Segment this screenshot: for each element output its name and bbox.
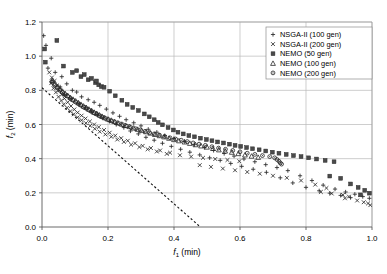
- marker-square: [239, 144, 243, 148]
- marker-square: [359, 193, 363, 197]
- y-tick-label: 1.2: [25, 18, 37, 27]
- marker-square: [339, 176, 343, 180]
- marker-square: [277, 151, 281, 155]
- marker-square: [323, 158, 327, 162]
- marker-square: [142, 112, 146, 116]
- marker-square-legend: [271, 52, 275, 56]
- marker-square: [147, 115, 151, 119]
- marker-square: [193, 135, 197, 139]
- marker-square: [62, 64, 66, 68]
- legend-label: NEMO (50 gen): [280, 49, 332, 58]
- marker-square: [349, 182, 353, 186]
- marker-square: [292, 154, 296, 158]
- legend-label: NSGA-II (200 gen): [280, 40, 341, 49]
- marker-square: [90, 76, 94, 80]
- marker-square: [233, 143, 237, 147]
- chart-root: 0.00.20.40.60.81.01.20.00.20.40.60.81.0f…: [0, 0, 387, 274]
- y-tick-label: 0.4: [25, 155, 37, 164]
- marker-square: [251, 147, 255, 151]
- marker-square: [270, 150, 274, 154]
- y-tick-label: 0.8: [25, 86, 37, 95]
- y-tick-label: 0.6: [25, 121, 37, 130]
- x-tick-label: 0.8: [300, 234, 312, 243]
- marker-square: [43, 60, 47, 64]
- legend-label: NEMO (100 gen): [280, 59, 336, 68]
- y-axis-title: f2 (min): [5, 111, 16, 139]
- marker-square: [171, 128, 175, 132]
- y-axis-title-group: f2 (min): [5, 111, 16, 139]
- x-tick-label: 0.4: [168, 234, 180, 243]
- marker-square: [367, 191, 371, 195]
- marker-square: [216, 140, 220, 144]
- x-axis-title: f1 (min): [173, 247, 201, 258]
- y-tick-label: 0.0: [25, 223, 37, 232]
- marker-square: [156, 121, 160, 125]
- marker-square: [363, 188, 367, 192]
- marker-square: [284, 152, 288, 156]
- marker-square: [131, 106, 135, 110]
- marker-square: [315, 157, 319, 161]
- marker-square: [328, 174, 332, 178]
- marker-square: [307, 156, 311, 160]
- scatter-plot: 0.00.20.40.60.81.01.20.00.20.40.60.81.0f…: [0, 0, 387, 274]
- marker-square: [299, 155, 303, 159]
- marker-square: [222, 141, 226, 145]
- x-tick-label: 1.0: [366, 234, 378, 243]
- y-tick-label: 0.2: [25, 189, 37, 198]
- marker-square: [136, 109, 140, 113]
- marker-square: [82, 73, 86, 77]
- marker-square: [264, 149, 268, 153]
- marker-square: [161, 123, 165, 127]
- marker-square: [204, 138, 208, 142]
- marker-square: [187, 134, 191, 138]
- marker-square: [102, 85, 106, 89]
- x-tick-label: 0.0: [36, 234, 48, 243]
- marker-square: [166, 126, 170, 130]
- marker-square: [245, 146, 249, 150]
- marker-square: [176, 130, 180, 134]
- marker-square: [108, 89, 112, 93]
- marker-square: [181, 132, 185, 136]
- marker-square: [95, 79, 99, 83]
- legend: NSGA-II (100 gen)NSGA-II (200 gen)NEMO (…: [266, 27, 372, 79]
- marker-square: [125, 102, 129, 106]
- marker-square: [332, 160, 336, 164]
- marker-square: [199, 136, 203, 140]
- marker-square: [228, 142, 232, 146]
- legend-label: NEMO (200 gen): [280, 69, 336, 78]
- y-tick-label: 1.0: [25, 52, 37, 61]
- marker-square: [113, 94, 117, 98]
- marker-square: [43, 47, 47, 51]
- x-tick-label: 0.2: [102, 234, 114, 243]
- x-tick-label: 0.6: [234, 234, 246, 243]
- marker-square: [257, 148, 261, 152]
- marker-square: [75, 69, 79, 73]
- marker-square: [120, 98, 124, 102]
- marker-square: [70, 70, 74, 74]
- marker-square: [55, 39, 59, 43]
- marker-square: [356, 185, 360, 189]
- marker-square: [152, 118, 156, 122]
- legend-label: NSGA-II (100 gen): [280, 30, 341, 39]
- marker-square: [210, 139, 214, 143]
